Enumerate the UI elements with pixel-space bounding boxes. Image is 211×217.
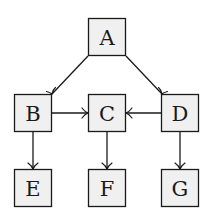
node-d: D <box>162 95 199 132</box>
graph-canvas: A B C D E F G <box>0 0 211 217</box>
node-g: G <box>162 170 199 207</box>
node-c-label: C <box>99 102 115 126</box>
node-b: B <box>15 95 52 132</box>
node-d-label: D <box>172 102 189 126</box>
node-f-label: F <box>100 177 115 201</box>
node-g-label: G <box>172 177 189 201</box>
node-c: C <box>89 95 126 132</box>
edge-c-f <box>102 132 112 169</box>
node-b-label: B <box>25 102 40 126</box>
edge-d-g <box>175 132 185 169</box>
node-e-label: E <box>25 177 40 201</box>
node-a-label: A <box>98 26 115 50</box>
edge-a-b <box>47 56 89 94</box>
edge-b-e <box>28 132 38 169</box>
edge-b-c <box>52 108 88 118</box>
edge-a-d <box>126 56 168 94</box>
edge-d-c <box>126 108 162 118</box>
node-a: A <box>89 19 126 56</box>
node-e: E <box>15 170 52 207</box>
node-f: F <box>89 170 126 207</box>
